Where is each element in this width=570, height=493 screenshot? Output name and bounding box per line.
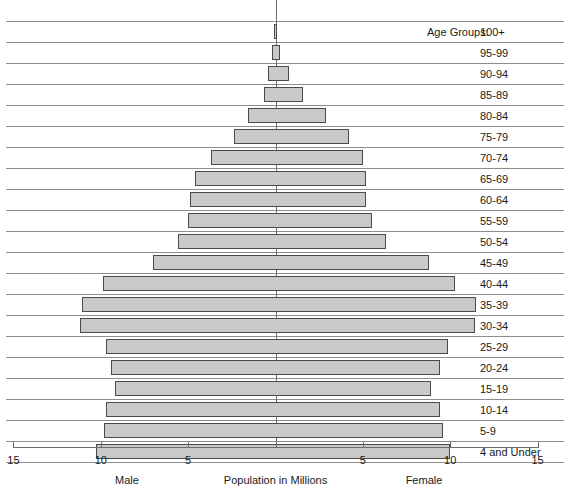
axis-tick [13,442,14,448]
axis-tick [363,442,364,448]
age-group-label: 40-44 [480,279,508,290]
pyramid-bar [103,276,456,291]
gridline [6,105,564,106]
gridline [6,273,564,274]
pyramid-bar [264,87,303,102]
gridline [6,357,564,358]
axis-tick [276,442,277,448]
pyramid-bar [178,234,386,249]
pyramid-bar [274,24,277,39]
gridline [6,378,564,379]
female-axis-label: Female [354,475,494,486]
gridline [6,441,564,442]
pyramid-bar [104,423,443,438]
axis-tick-label: 5 [168,455,208,466]
pyramid-bar [234,129,349,144]
age-group-label: 90-94 [480,69,508,80]
pyramid-bar [211,150,363,165]
age-group-label: 65-69 [480,174,508,185]
axis-tick-label: 10 [81,455,121,466]
age-group-label: 85-89 [480,90,508,101]
gridline [6,168,564,169]
axis-tick-label: 15 [518,455,558,466]
age-group-label: 10-14 [480,405,508,416]
gridline [6,420,564,421]
pyramid-bar [268,66,289,81]
pyramid-bar [106,339,448,354]
axis-tick [101,442,102,448]
age-group-label: 45-49 [480,258,508,269]
gridline [6,63,564,64]
gridline [6,399,564,400]
age-group-label: 60-64 [480,195,508,206]
gridline [6,189,564,190]
age-group-label: 55-59 [480,216,508,227]
gridline [6,336,564,337]
axis-tick [450,442,451,448]
pyramid-bar [153,255,429,270]
gridline [6,147,564,148]
pyramid-bar [80,318,475,333]
age-group-label: 75-79 [480,132,508,143]
age-group-label: 25-29 [480,342,508,353]
pyramid-bar [190,192,366,207]
pyramid-bar [248,108,327,123]
pyramid-bar [188,213,371,228]
plot-area: 100+95-9990-9485-8980-8475-7970-7465-696… [0,0,570,445]
age-group-label: 20-24 [480,363,508,374]
age-group-label: 15-19 [480,384,508,395]
pyramid-bar [272,45,280,60]
axis-tick [538,442,539,448]
pyramid-bar [195,171,366,186]
x-axis-title: Population in Millions [206,475,346,486]
male-axis-label: Male [57,475,197,486]
gridline [6,126,564,127]
gridline [6,252,564,253]
age-group-label: 80-84 [480,111,508,122]
pyramid-bar [115,381,431,396]
age-group-label: 30-34 [480,321,508,332]
gridline [6,42,564,43]
gridline [6,84,564,85]
age-group-label: 95-99 [480,48,508,59]
pyramid-bar [111,360,439,375]
pyramid-bar [106,402,440,417]
axis-tick-label: 10 [430,455,470,466]
gridline [6,315,564,316]
age-group-label: 35-39 [480,300,508,311]
gridline [6,294,564,295]
gridline [6,210,564,211]
age-group-label: 50-54 [480,237,508,248]
age-group-label: 70-74 [480,153,508,164]
axis-tick-label: 15 [0,455,33,466]
age-group-label: 5-9 [480,426,496,437]
gridline [6,21,564,22]
axis-tick [188,442,189,448]
pyramid-bar [82,297,477,312]
population-pyramid-chart: 100+95-9990-9485-8980-8475-7970-7465-696… [0,0,570,493]
age-groups-caption: Age Groups: [427,27,489,38]
gridline [6,231,564,232]
axis-tick-label: 5 [343,455,383,466]
